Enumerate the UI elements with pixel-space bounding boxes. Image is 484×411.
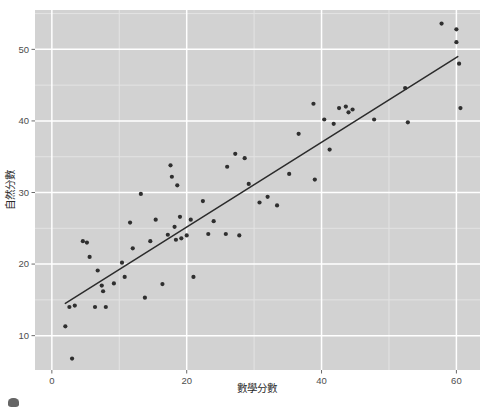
data-point [93, 305, 97, 309]
scatter-chart: 0204060 1020304050 數學分數 自然分數 [0, 0, 484, 411]
data-point [454, 40, 458, 44]
data-point [297, 132, 301, 136]
data-point [120, 261, 124, 265]
data-point [346, 110, 350, 114]
data-point [88, 255, 92, 259]
data-point [100, 283, 104, 287]
data-point [311, 102, 315, 106]
x-axis-title: 數學分數 [237, 382, 278, 394]
data-point [166, 233, 170, 237]
data-point [178, 215, 182, 219]
data-point [201, 199, 205, 203]
data-point [191, 275, 195, 279]
data-point [112, 281, 116, 285]
x-tick-label: 60 [451, 375, 462, 386]
data-point [344, 105, 348, 109]
data-point [128, 220, 132, 224]
data-point [457, 62, 461, 66]
y-tick-label: 40 [18, 115, 29, 126]
data-point [139, 192, 143, 196]
data-point [372, 117, 376, 121]
data-point [143, 296, 147, 300]
data-point [189, 218, 193, 222]
x-tick-label: 40 [316, 375, 327, 386]
data-point [212, 219, 216, 223]
data-point [225, 165, 229, 169]
data-point [233, 152, 237, 156]
data-point [67, 305, 71, 309]
y-tick-label: 10 [18, 330, 29, 341]
data-point [172, 225, 176, 229]
data-point [148, 239, 152, 243]
data-point [73, 303, 77, 307]
plot-panel-background [35, 10, 480, 370]
data-point [175, 183, 179, 187]
y-tick-label: 30 [18, 187, 29, 198]
data-point [96, 268, 100, 272]
data-point [247, 182, 251, 186]
data-point [206, 232, 210, 236]
data-point [170, 175, 174, 179]
data-point [439, 21, 443, 25]
data-point [224, 232, 228, 236]
data-point [406, 120, 410, 124]
cursor-icon [8, 398, 19, 407]
data-point [275, 203, 279, 207]
x-tick-label: 0 [49, 375, 54, 386]
data-point [168, 163, 172, 167]
data-point [313, 178, 317, 182]
data-point [104, 305, 108, 309]
y-axis-title: 自然分數 [4, 169, 16, 210]
data-point [131, 246, 135, 250]
data-point [350, 107, 354, 111]
data-point [257, 200, 261, 204]
y-tick-label: 20 [18, 258, 29, 269]
data-point [458, 106, 462, 110]
data-point [63, 324, 67, 328]
data-point [266, 195, 270, 199]
data-point [332, 122, 336, 126]
data-point [287, 172, 291, 176]
data-point [243, 156, 247, 160]
data-point [101, 289, 105, 293]
data-point [154, 218, 158, 222]
data-point [337, 106, 341, 110]
data-point [123, 275, 127, 279]
data-point [185, 233, 189, 237]
data-point [454, 27, 458, 31]
data-point [174, 238, 178, 242]
data-point [237, 233, 241, 237]
y-tick-label: 50 [18, 44, 29, 55]
data-point [328, 147, 332, 151]
data-point [322, 117, 326, 121]
data-point [70, 356, 74, 360]
data-point [81, 239, 85, 243]
data-point [179, 236, 183, 240]
plot-svg: 0204060 1020304050 數學分數 自然分數 [0, 0, 484, 411]
x-tick-label: 20 [181, 375, 192, 386]
data-point [160, 282, 164, 286]
data-point [85, 241, 89, 245]
